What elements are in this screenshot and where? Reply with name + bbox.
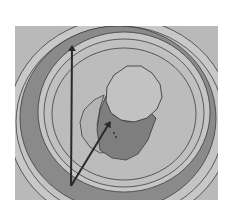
origin-mark [113, 132, 115, 134]
cad-scene [0, 0, 228, 213]
vertical-vector-arrow [71, 46, 72, 186]
origin-mark-2 [115, 136, 117, 138]
